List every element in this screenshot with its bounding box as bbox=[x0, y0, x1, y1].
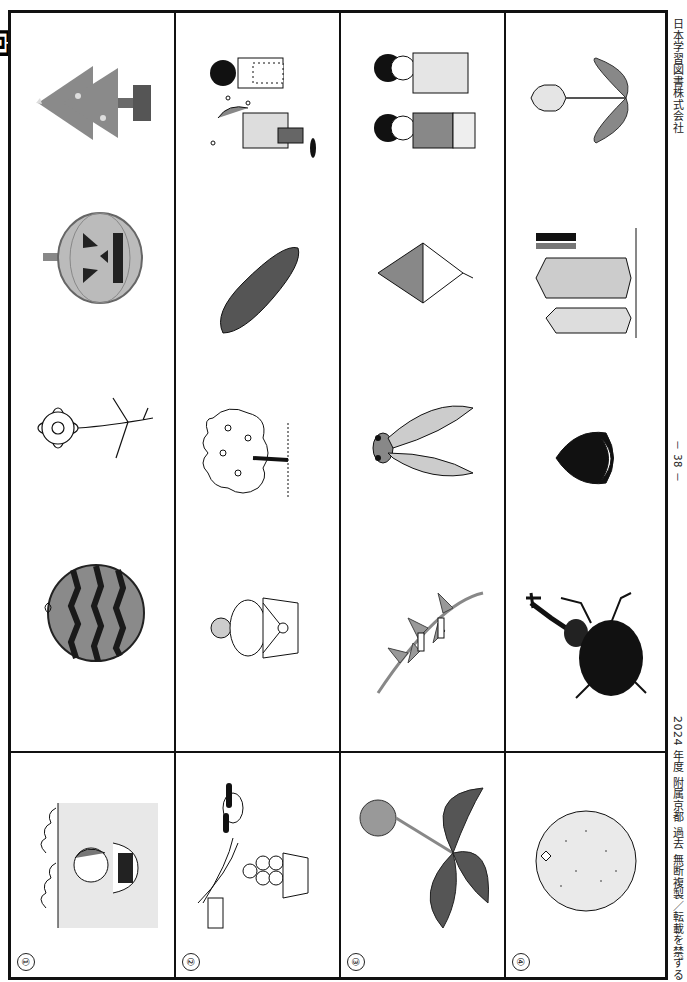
choice-3[interactable] bbox=[176, 228, 339, 348]
christmas-tree-icon bbox=[33, 58, 153, 148]
row-number: ④ bbox=[512, 953, 530, 971]
choice-2[interactable] bbox=[176, 388, 339, 528]
reference-picture bbox=[341, 768, 504, 948]
sweet-potato-icon bbox=[203, 233, 313, 343]
choice-4[interactable] bbox=[176, 43, 339, 193]
koinobori-icon bbox=[526, 223, 646, 343]
divider bbox=[11, 751, 174, 753]
choice-3[interactable] bbox=[506, 218, 665, 348]
cosmos-icon bbox=[28, 388, 158, 468]
row-2: ② bbox=[176, 13, 341, 977]
row-number: ③ bbox=[347, 953, 365, 971]
setsubun-icon bbox=[198, 48, 318, 188]
pumpkin-icon bbox=[38, 208, 148, 308]
question-frame: ① bbox=[8, 10, 668, 980]
choice-1[interactable] bbox=[341, 568, 504, 718]
reference-picture bbox=[176, 768, 339, 948]
choice-3[interactable] bbox=[11, 198, 174, 318]
choice-4[interactable] bbox=[341, 38, 504, 178]
choice-3[interactable] bbox=[341, 208, 504, 338]
chestnut-icon bbox=[546, 423, 626, 493]
kite-icon bbox=[368, 228, 478, 318]
row-number: ① bbox=[17, 953, 35, 971]
swimming-child-icon bbox=[23, 793, 163, 933]
page-number: － 38 － bbox=[670, 440, 685, 482]
cicada-icon bbox=[363, 393, 483, 493]
tulip-icon bbox=[526, 53, 646, 163]
row-number: ② bbox=[182, 953, 200, 971]
shichigosan-icon bbox=[363, 43, 483, 173]
choice-2[interactable] bbox=[341, 373, 504, 513]
mikan-icon bbox=[526, 801, 646, 921]
choice-4[interactable] bbox=[506, 43, 665, 173]
footer-copyright: 2024 年度 附属京都 過去 無断複製／転載を禁ずる bbox=[669, 716, 685, 980]
divider bbox=[176, 751, 339, 753]
publisher-name: 日本学習図書株式会社 bbox=[669, 18, 685, 133]
sakura-tree-icon bbox=[193, 398, 323, 518]
divider bbox=[341, 751, 504, 753]
dandelion-icon bbox=[353, 783, 493, 933]
row-4: ④ bbox=[506, 13, 665, 977]
choice-1[interactable] bbox=[506, 568, 665, 718]
tsukimi-icon bbox=[188, 783, 328, 933]
kagami-mochi-icon bbox=[203, 583, 313, 673]
choice-2[interactable] bbox=[11, 368, 174, 488]
watermelon-icon bbox=[38, 558, 148, 668]
choice-1[interactable] bbox=[176, 558, 339, 698]
choice-1[interactable] bbox=[11, 553, 174, 673]
tanabata-icon bbox=[358, 583, 488, 703]
divider bbox=[506, 751, 665, 753]
row-3: ③ bbox=[341, 13, 506, 977]
reference-picture bbox=[11, 773, 174, 953]
beetle-icon bbox=[521, 583, 651, 703]
row-1: ① bbox=[11, 13, 176, 977]
reference-picture bbox=[506, 773, 665, 948]
choice-2[interactable] bbox=[506, 388, 665, 528]
title-fragment: 問題 bbox=[0, 0, 8, 110]
choice-4[interactable] bbox=[11, 43, 174, 163]
